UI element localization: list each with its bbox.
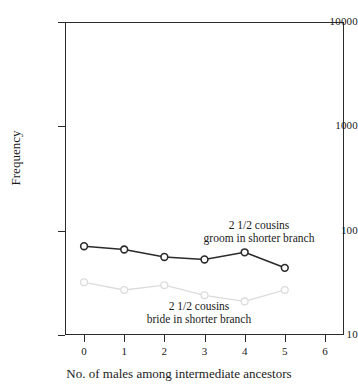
x-tick-0 [84,335,85,342]
x-tick-2 [164,335,165,342]
y-tick-label-1000: 1000 [302,120,358,131]
x-axis-title: No. of males among intermediate ancestor… [0,366,358,382]
groom-annotation-line-2: groom in shorter branch [176,232,342,245]
x-tick-label-2: 2 [149,345,179,357]
x-tick-3 [205,335,206,342]
y-tick-10000 [58,22,65,23]
x-tick-label-1: 1 [109,345,139,357]
y-tick-1000 [58,126,65,127]
log-line-chart: 10100100010000 Frequency 0123456 No. of … [0,0,358,392]
y-tick-label-10: 10 [302,329,358,340]
bride-annotation-line-2: bride in shorter branch [116,313,282,326]
groom-series-annotation: 2 1/2 cousins groom in shorter branch [176,219,342,245]
y-tick-100 [58,231,65,232]
x-tick-6 [325,335,326,342]
x-tick-5 [285,335,286,342]
x-tick-1 [124,335,125,342]
x-tick-label-0: 0 [69,345,99,357]
plot-area-frame [65,22,344,335]
x-tick-label-5: 5 [270,345,300,357]
y-axis-title: Frequency [8,108,24,208]
x-tick-label-4: 4 [230,345,260,357]
x-tick-label-3: 3 [190,345,220,357]
bride-series-annotation: 2 1/2 cousins bride in shorter branch [116,300,282,326]
x-tick-4 [245,335,246,342]
bride-annotation-line-1: 2 1/2 cousins [116,300,282,313]
y-tick-label-10000: 10000 [302,16,358,27]
x-tick-label-6: 6 [310,345,340,357]
y-tick-10 [58,335,65,336]
groom-annotation-line-1: 2 1/2 cousins [176,219,342,232]
